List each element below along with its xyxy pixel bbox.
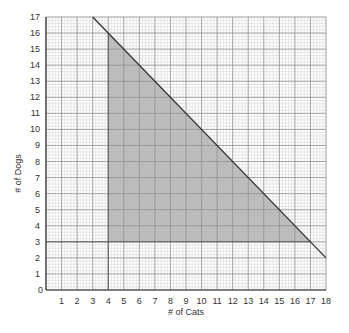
x-tick-labels: 123456789101112131415161718 [59,296,331,306]
x-tick-label: 17 [305,296,315,306]
y-tick-label: 6 [35,189,40,199]
y-tick-label: 14 [30,60,40,70]
x-tick-label: 18 [321,296,331,306]
x-tick-label: 1 [59,296,64,306]
y-tick-label: 8 [35,157,40,167]
y-tick-label: 9 [35,140,40,150]
x-tick-label: 3 [90,296,95,306]
x-tick-label: 14 [259,296,269,306]
x-tick-label: 9 [183,296,188,306]
x-tick-label: 5 [121,296,126,306]
x-tick-label: 11 [212,296,221,306]
chart: 123456789101112131415161718 123456789101… [0,0,349,333]
x-tick-label: 6 [137,296,142,306]
y-tick-label: 5 [35,205,40,215]
x-tick-label: 10 [197,296,207,306]
x-tick-label: 7 [152,296,157,306]
x-tick-label: 4 [106,296,111,306]
x-tick-label: 15 [274,296,284,306]
y-tick-label: 16 [30,28,40,38]
y-tick-label: 3 [35,237,40,247]
y-tick-label: 11 [31,108,40,118]
y-axis-label: # of Dogs [13,154,23,193]
x-axis-label: # of Cats [168,307,205,317]
y-tick-label: 4 [35,221,40,231]
y-tick-label: 7 [35,173,40,183]
x-tick-label: 12 [228,296,238,306]
major-grid [46,17,326,290]
x-tick-label: 13 [243,296,253,306]
y-tick-label: 15 [30,44,40,54]
y-tick-label: 1 [35,269,40,279]
origin-label: 0 [38,285,43,295]
y-tick-label: 2 [35,253,40,263]
y-tick-label: 12 [30,92,40,102]
x-tick-label: 8 [168,296,173,306]
x-tick-label: 2 [75,296,80,306]
y-tick-label: 17 [30,12,40,22]
y-tick-label: 10 [30,124,40,134]
y-tick-labels: 1234567891011121314151617 [30,12,40,279]
x-tick-label: 16 [290,296,300,306]
y-tick-label: 13 [30,76,40,86]
